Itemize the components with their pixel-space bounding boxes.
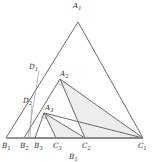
- label-c3: C3: [53, 142, 62, 151]
- geometry-figure: A1 A2 A3 D1 D2 B1 B2 B3 C3 C2 C1 B1: [0, 0, 152, 162]
- label-a3: A3: [45, 104, 54, 113]
- label-b3: B3: [34, 142, 43, 151]
- figure-canvas: [0, 0, 152, 162]
- label-caption: B1: [69, 153, 78, 162]
- label-a2: A2: [60, 70, 69, 79]
- label-c1: C1: [138, 142, 147, 151]
- label-b1: B1: [2, 142, 11, 151]
- label-b2: B2: [20, 142, 29, 151]
- label-c2: C2: [82, 142, 91, 151]
- label-a1: A1: [73, 2, 82, 11]
- shaded-regions: [6, 79, 143, 138]
- label-d1: D1: [29, 63, 38, 72]
- label-d2: D2: [23, 97, 32, 106]
- segment-d2-b3: [30, 105, 32, 138]
